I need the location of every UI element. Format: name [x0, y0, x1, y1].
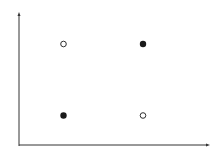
- y-axis-arrow-icon: [18, 12, 21, 16]
- scatter-chart: [0, 0, 219, 154]
- filled-point-icon: [60, 112, 66, 118]
- open-point-icon: [140, 113, 146, 119]
- x-axis: [19, 144, 210, 147]
- data-points: [60, 41, 146, 119]
- x-axis-arrow-icon: [206, 144, 210, 147]
- filled-point-icon: [140, 41, 146, 47]
- y-axis: [18, 12, 21, 146]
- open-point-icon: [61, 41, 67, 47]
